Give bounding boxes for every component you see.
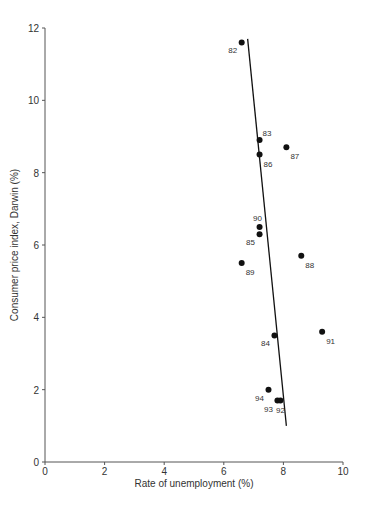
- y-tick-label: 4: [33, 312, 39, 323]
- x-tick-label: 4: [161, 466, 167, 477]
- y-axis-title: Consumer price index, Darwin (%): [9, 169, 20, 321]
- point-label: 87: [290, 152, 299, 161]
- point-label: 83: [263, 129, 272, 138]
- data-point: 86: [257, 152, 273, 169]
- regression-line: [248, 39, 287, 426]
- data-point: 82: [228, 39, 244, 55]
- point-label: 94: [255, 394, 264, 403]
- data-point: 87: [283, 144, 299, 161]
- y-tick-label: 8: [33, 168, 39, 179]
- point-label: 86: [264, 160, 273, 169]
- point-marker: [298, 253, 304, 259]
- data-point: 84: [261, 332, 277, 348]
- point-marker: [239, 39, 245, 45]
- point-label: 84: [261, 339, 270, 348]
- y-tick-label: 2: [33, 385, 39, 396]
- point-marker: [283, 144, 289, 150]
- point-marker: [239, 260, 245, 266]
- x-tick-label: 6: [221, 466, 227, 477]
- point-marker: [257, 231, 263, 237]
- point-marker: [319, 329, 325, 335]
- x-tick-label: 2: [102, 466, 108, 477]
- y-tick-label: 0: [33, 457, 39, 468]
- data-point: 83: [257, 129, 272, 143]
- point-marker: [277, 398, 283, 404]
- point-marker: [271, 332, 277, 338]
- point-label: 93: [264, 405, 273, 414]
- point-marker: [257, 224, 263, 230]
- point-label: 82: [228, 46, 237, 55]
- scatter-chart: 0246810024681012 82838687908589888491949…: [0, 0, 373, 514]
- x-tick-label: 0: [42, 466, 48, 477]
- x-tick-label: 10: [337, 466, 349, 477]
- data-points: 82838687908589888491949392: [228, 39, 335, 414]
- data-point: 89: [239, 260, 255, 277]
- y-tick-label: 12: [28, 23, 40, 34]
- point-label: 85: [246, 238, 255, 247]
- point-marker: [257, 152, 263, 158]
- point-label: 91: [326, 337, 335, 346]
- x-axis-title: Rate of unemployment (%): [135, 478, 254, 489]
- point-label: 92: [276, 406, 285, 415]
- data-point: 94: [255, 387, 271, 403]
- data-point: 88: [298, 253, 314, 270]
- axes: [45, 28, 343, 462]
- point-label: 90: [253, 214, 262, 223]
- trend-line: [248, 39, 287, 426]
- data-point: 90: [253, 214, 262, 230]
- data-point: 85: [246, 231, 262, 247]
- point-label: 89: [246, 268, 255, 277]
- y-tick-label: 10: [28, 95, 40, 106]
- data-point: 91: [319, 329, 335, 346]
- point-marker: [266, 387, 272, 393]
- y-tick-label: 6: [33, 240, 39, 251]
- point-label: 88: [305, 261, 314, 270]
- x-tick-label: 8: [281, 466, 287, 477]
- axis-ticks: 0246810024681012: [28, 23, 349, 477]
